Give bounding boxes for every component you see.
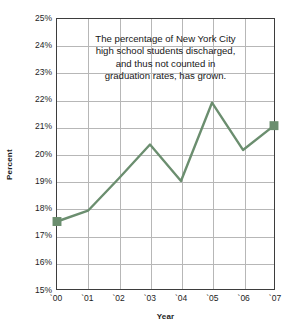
y-tick-label: 25%: [18, 14, 52, 23]
y-tick-label: 20%: [18, 150, 52, 159]
y-tick-label: 21%: [18, 122, 52, 131]
y-tick-label: 18%: [18, 204, 52, 213]
line-chart-figure: Percent 25%24%23%22%21%20%19%18%17%16%15…: [0, 0, 287, 329]
x-tick-label: `07: [260, 293, 287, 303]
data-point-marker: [53, 217, 62, 226]
x-axis-title: Year: [56, 312, 275, 321]
y-axis-title: Percent: [2, 134, 16, 196]
y-tick-label: 16%: [18, 258, 52, 267]
data-point-marker: [270, 121, 279, 130]
x-axis-tick-labels: `00`01`02`03`04`05`06`07: [0, 293, 287, 307]
x-tick-label: `02: [104, 293, 134, 303]
y-tick-label: 19%: [18, 177, 52, 186]
x-tick-label: `06: [229, 293, 259, 303]
x-tick-label: `00: [41, 293, 71, 303]
x-tick-label: `04: [166, 293, 196, 303]
x-tick-label: `05: [197, 293, 227, 303]
x-tick-label: `03: [135, 293, 165, 303]
x-tick-label: `01: [72, 293, 102, 303]
y-tick-label: 24%: [18, 41, 52, 50]
data-series-layer: [57, 19, 274, 289]
y-tick-label: 17%: [18, 231, 52, 240]
y-tick-label: 22%: [18, 95, 52, 104]
series-line: [57, 103, 274, 222]
plot-area: [56, 18, 275, 290]
y-axis-tick-labels: 25%24%23%22%21%20%19%18%17%16%15%: [18, 0, 52, 329]
y-tick-label: 23%: [18, 68, 52, 77]
